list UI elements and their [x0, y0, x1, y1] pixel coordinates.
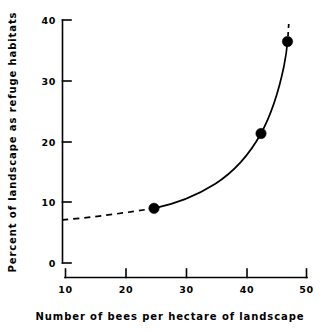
chart-container: 40 30 20 10 0 10 20 30 40 50 Number of b…	[0, 0, 326, 332]
data-point-3	[282, 36, 292, 46]
y-tick-label-0: 0	[49, 258, 56, 269]
data-point-1	[149, 203, 159, 213]
y-tick-label-30: 30	[42, 76, 56, 87]
y-axis-title: Percent of landscape as refuge habitats	[7, 12, 18, 273]
x-tick-label-30: 30	[179, 284, 193, 295]
x-tick-label-10: 10	[58, 284, 72, 295]
curve-dashed-upper-segment	[288, 20, 289, 36]
x-tick-label-50: 50	[299, 284, 313, 295]
y-tick-label-20: 20	[42, 137, 56, 148]
data-point-2	[256, 128, 266, 138]
x-tick-label-40: 40	[240, 284, 254, 295]
scatter-line-chart: 40 30 20 10 0 10 20 30 40 50 Number of b…	[0, 0, 326, 332]
x-axis-title: Number of bees per hectare of landscape	[36, 311, 305, 322]
y-tick-label-10: 10	[42, 197, 56, 208]
y-tick-label-40: 40	[42, 15, 56, 26]
x-tick-label-20: 20	[119, 284, 133, 295]
curve-solid-main	[154, 42, 288, 209]
curve-dashed-lower-segment	[63, 208, 155, 220]
